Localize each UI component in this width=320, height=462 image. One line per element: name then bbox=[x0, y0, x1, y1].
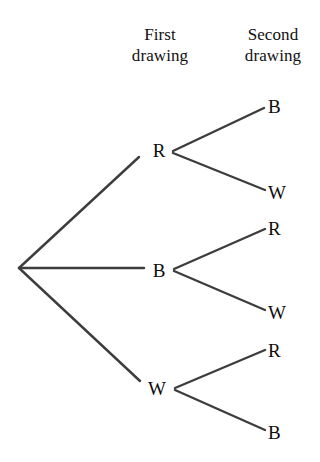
node-second-draw-r-w: W bbox=[268, 183, 290, 202]
column-header-second-line1: Second bbox=[226, 24, 320, 45]
node-second-draw-r-b: B bbox=[268, 97, 290, 116]
column-header-second-line2: drawing bbox=[226, 45, 320, 66]
branch-R-to-W bbox=[173, 153, 265, 190]
branch-root-to-W bbox=[19, 268, 140, 381]
node-second-draw-w-r: R bbox=[268, 341, 290, 360]
node-second-draw-b-w: W bbox=[268, 303, 290, 322]
node-second-draw-w-b: B bbox=[268, 423, 290, 442]
branch-root-to-R bbox=[19, 157, 139, 268]
node-first-draw-black: B bbox=[148, 261, 170, 280]
branch-B-to-W bbox=[174, 271, 265, 310]
node-first-draw-red: R bbox=[148, 141, 170, 160]
node-second-draw-b-r: R bbox=[268, 219, 290, 238]
branch-R-to-B bbox=[173, 108, 264, 151]
branch-B-to-R bbox=[174, 229, 265, 269]
column-header-second-drawing: Second drawing bbox=[226, 24, 320, 66]
branch-W-to-B bbox=[175, 390, 265, 430]
column-header-first-line1: First bbox=[112, 24, 208, 45]
column-header-first-drawing: First drawing bbox=[112, 24, 208, 66]
column-header-first-line2: drawing bbox=[112, 45, 208, 66]
tree-diagram: First drawing Second drawing R B W B W R… bbox=[0, 0, 320, 462]
node-first-draw-white: W bbox=[146, 379, 168, 398]
branch-W-to-R bbox=[175, 350, 265, 388]
